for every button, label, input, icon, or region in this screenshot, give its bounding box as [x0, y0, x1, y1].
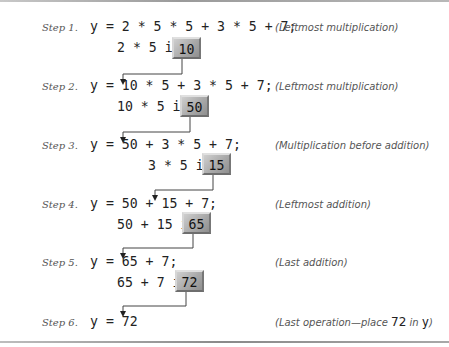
- step-2-label: Step 2.: [42, 81, 78, 92]
- step-5-label: Step 5.: [42, 257, 78, 268]
- step-6-expression: y = 72: [90, 314, 138, 330]
- step-2-expression: y = 10 * 5 + 3 * 5 + 7;: [90, 78, 273, 94]
- step-1-note: (Leftmost multiplication): [275, 22, 398, 33]
- step-6-note: (Last operation—place 72 in y): [275, 315, 433, 329]
- step-2-note: (Leftmost multiplication): [275, 81, 398, 92]
- step-1-label: Step 1.: [42, 22, 78, 33]
- step-3-result-box: 15: [202, 153, 231, 175]
- note-text: (Last operation—place: [275, 317, 391, 328]
- step-4-label: Step 4.: [42, 199, 78, 210]
- note-value: 72: [391, 315, 406, 329]
- step-4-result-box: 65: [182, 212, 211, 234]
- note-variable: y: [422, 315, 429, 329]
- step-5-note: (Last addition): [275, 257, 348, 268]
- step-3-expression: y = 50 + 3 * 5 + 7;: [90, 137, 241, 153]
- step-3-label: Step 3.: [42, 140, 78, 151]
- step-5-expression: y = 65 + 7;: [90, 254, 177, 270]
- step-5-result-box: 72: [175, 270, 204, 292]
- step-2-result-box: 50: [180, 95, 209, 117]
- bottom-rule: [0, 341, 449, 343]
- step-3-note: (Multiplication before addition): [275, 140, 429, 151]
- note-text: ): [429, 317, 433, 328]
- step-4-expression: y = 50 + 15 + 7;: [90, 196, 217, 212]
- step-4-note: (Leftmost addition): [275, 199, 371, 210]
- step-1-result-box: 10: [172, 37, 201, 59]
- top-rule: [0, 0, 449, 2]
- step-6-label: Step 6.: [42, 317, 78, 328]
- note-text: in: [406, 317, 421, 328]
- step-1-expression: y = 2 * 5 * 5 + 3 * 5 + 7;: [90, 19, 296, 35]
